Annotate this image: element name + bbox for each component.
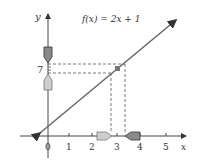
x-tick-1: 1 (66, 142, 72, 152)
x-tick-4: 4 (137, 142, 143, 152)
light-arrow-up-icon (44, 74, 52, 90)
function-label: f(x) = 2x + 1 (81, 14, 140, 24)
x-axis-label: x (181, 142, 186, 152)
y-tick-7: 7 (37, 64, 43, 75)
x-tick-3: 3 (114, 142, 120, 152)
function-line (40, 20, 176, 133)
highlight-point (115, 66, 120, 71)
dashed-guides (48, 64, 125, 133)
dark-arrow-down-icon (44, 47, 52, 63)
graph: y f(x) = 2x + 1 7 0 1 2 3 4 5 x (0, 0, 205, 168)
light-arrow-right-icon (97, 132, 112, 140)
y-axis-label: y (34, 11, 41, 22)
dark-arrow-left-icon (125, 132, 140, 140)
x-tick-2: 2 (89, 142, 95, 152)
x-tick-0: 0 (45, 142, 51, 152)
x-tick-5: 5 (163, 142, 169, 152)
